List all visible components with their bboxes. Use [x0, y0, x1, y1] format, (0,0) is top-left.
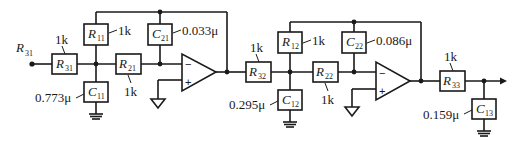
r11-value: 1k	[118, 23, 132, 38]
svg-text:12: 12	[291, 100, 299, 109]
c21-value: 0.033μ	[182, 23, 218, 38]
capacitor-c22: C 22 0.086μ	[342, 32, 412, 53]
input-label-symbol: R	[15, 40, 24, 55]
ground-triangle-icon	[345, 107, 359, 116]
svg-text:R: R	[281, 34, 290, 49]
svg-text:R: R	[315, 64, 324, 79]
ground-icon	[283, 122, 297, 127]
node	[158, 10, 163, 15]
ground-icon	[477, 131, 491, 136]
svg-text:R: R	[55, 56, 64, 71]
capacitor-c13: C 13 0.159μ	[423, 99, 496, 122]
r32-value: 1k	[250, 40, 264, 55]
capacitor-c21: C 21 0.033μ	[148, 23, 218, 45]
svg-text:C: C	[346, 34, 355, 49]
c13-value: 0.159μ	[423, 107, 459, 122]
resistor-r11: R 11 1k	[84, 23, 132, 45]
node	[94, 62, 99, 67]
r31-value: 1k	[55, 32, 69, 47]
schematic: R 31 R 31 1k R	[0, 0, 515, 143]
svg-text:C: C	[152, 26, 161, 41]
svg-text:33: 33	[452, 81, 460, 90]
resistor-r31: R 31 1k	[52, 32, 77, 74]
svg-text:22: 22	[355, 42, 363, 51]
ground-icon	[89, 114, 103, 119]
svg-text:C: C	[88, 84, 97, 99]
resistor-r33: R 33 1k	[440, 49, 465, 91]
svg-text:32: 32	[258, 72, 266, 81]
node	[482, 79, 487, 84]
output-arrow-icon	[500, 78, 507, 85]
opamp-2: − +	[376, 62, 410, 100]
node	[419, 79, 424, 84]
svg-text:31: 31	[65, 64, 73, 73]
r12-value: 1k	[312, 33, 326, 48]
svg-text:C: C	[282, 92, 291, 107]
svg-text:R: R	[248, 64, 257, 79]
capacitor-c12: C 12 0.295μ	[229, 90, 302, 112]
svg-text:−: −	[379, 67, 385, 79]
svg-text:R: R	[87, 26, 96, 41]
svg-text:+: +	[185, 76, 191, 88]
resistor-r21: R 21 1k	[116, 54, 141, 99]
svg-text:11: 11	[97, 34, 105, 43]
input-terminal: R 31	[15, 40, 35, 67]
input-label-subscript: 31	[25, 49, 33, 58]
node	[352, 70, 357, 75]
resistor-r12: R 12 1k	[278, 32, 326, 53]
node	[158, 62, 163, 67]
svg-text:C: C	[476, 101, 485, 116]
svg-text:11: 11	[97, 92, 105, 101]
ground-triangle-icon	[151, 99, 165, 108]
svg-text:21: 21	[128, 64, 136, 73]
svg-text:+: +	[379, 85, 385, 97]
resistor-r22: R 22 1k	[313, 62, 338, 107]
node	[352, 20, 357, 25]
c12-value: 0.295μ	[229, 97, 265, 112]
circuit-diagram: R 31 R 31 1k R	[0, 0, 515, 143]
r22-value: 1k	[321, 92, 335, 107]
r33-value: 1k	[444, 49, 458, 64]
svg-text:21: 21	[161, 34, 169, 43]
c22-value: 0.086μ	[376, 33, 412, 48]
capacitor-c11: C 11 0.773μ	[35, 82, 108, 105]
c11-value: 0.773μ	[35, 90, 71, 105]
svg-text:R: R	[118, 56, 127, 71]
opamp-1: − +	[182, 54, 216, 91]
node	[288, 70, 293, 75]
resistor-r32: R 32 1k	[246, 40, 271, 82]
svg-text:13: 13	[485, 109, 493, 118]
svg-text:−: −	[185, 58, 191, 70]
svg-text:R: R	[442, 73, 451, 88]
svg-text:22: 22	[325, 72, 333, 81]
r21-value: 1k	[124, 84, 138, 99]
node	[225, 70, 230, 75]
svg-text:12: 12	[291, 42, 299, 51]
